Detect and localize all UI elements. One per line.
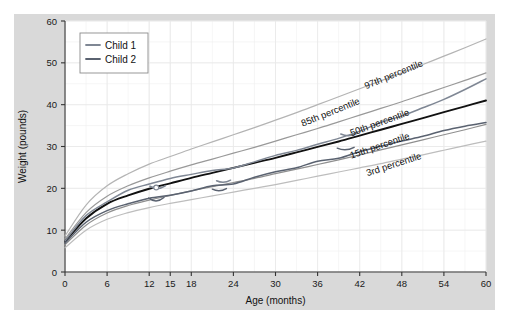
chart-legend[interactable]: Child 1Child 2 (80, 33, 148, 73)
x-tick-label: 0 (62, 278, 67, 289)
x-tick-label: 30 (270, 278, 281, 289)
legend-label-child-1[interactable]: Child 1 (105, 40, 137, 51)
x-tick-label: 36 (312, 278, 323, 289)
y-tick-label: 10 (46, 225, 57, 236)
x-tick-labels: 0612151824303642485460 (62, 278, 491, 289)
y-tick-label: 60 (46, 16, 57, 27)
y-tick-label: 20 (46, 183, 57, 194)
y-tick-label: 0 (52, 267, 57, 278)
y-tick-labels: 0102030405060 (46, 16, 57, 278)
x-tick-label: 60 (481, 278, 492, 289)
data-point-markers (154, 185, 159, 190)
y-axis-title: Weight (pounds) (17, 110, 28, 183)
x-tick-label: 48 (397, 278, 408, 289)
x-tick-label: 12 (144, 278, 155, 289)
y-tick-label: 50 (46, 57, 57, 68)
y-tick-label: 30 (46, 141, 57, 152)
x-tick-label: 15 (165, 278, 176, 289)
growth-chart: 97th percentile85th percentile50th perce… (0, 0, 509, 331)
x-tick-label: 18 (186, 278, 197, 289)
legend-label-child-2[interactable]: Child 2 (105, 54, 137, 65)
x-tick-label: 54 (439, 278, 450, 289)
x-tick-label: 42 (354, 278, 365, 289)
x-tick-label: 6 (104, 278, 109, 289)
x-tick-label: 24 (228, 278, 239, 289)
y-tick-label: 40 (46, 99, 57, 110)
x-axis-title: Age (months) (245, 295, 305, 306)
